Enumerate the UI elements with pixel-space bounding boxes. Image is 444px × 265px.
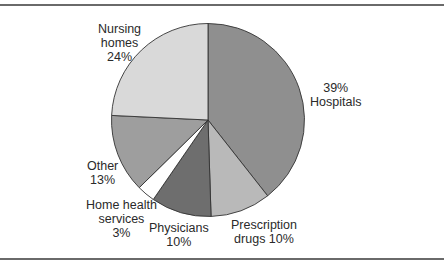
- label-nursing-homes: Nursing homes 24%: [98, 22, 141, 64]
- label-hospitals: 39% Hospitals: [310, 81, 361, 109]
- label-nursing-name: Nursing: [98, 22, 141, 36]
- label-prescription-name: Prescription: [231, 218, 297, 232]
- label-prescription-drugs: Prescription drugs 10%: [231, 218, 297, 246]
- label-physicians-name: Physicians: [149, 221, 209, 235]
- label-other-name: Other: [87, 159, 118, 173]
- label-home-health-name: Home health: [86, 198, 157, 212]
- label-hospitals-name: Hospitals: [310, 95, 361, 109]
- label-nursing-value: 24%: [98, 50, 141, 64]
- label-prescription-value: drugs 10%: [231, 232, 297, 246]
- label-home-health: Home health services 3%: [86, 198, 157, 240]
- label-physicians: Physicians 10%: [149, 221, 209, 249]
- label-nursing-name2: homes: [98, 36, 141, 50]
- label-hospitals-value: 39%: [310, 81, 361, 95]
- chart-frame: 39% Hospitals Prescription drugs 10% Phy…: [0, 0, 444, 265]
- pie-chart: [0, 0, 444, 265]
- label-other-value: 13%: [87, 173, 118, 187]
- label-home-health-value: 3%: [86, 226, 157, 240]
- label-home-health-name2: services: [86, 212, 157, 226]
- label-other: Other 13%: [87, 159, 118, 187]
- label-physicians-value: 10%: [149, 235, 209, 249]
